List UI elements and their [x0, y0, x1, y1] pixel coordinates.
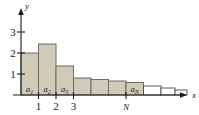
x-tick-label-2: 2: [53, 100, 59, 112]
x-tick-label-N: N: [122, 102, 130, 112]
y-axis-label: y: [24, 1, 29, 11]
x-tick-label-1: 1: [36, 100, 42, 112]
y-tick-label-3: 3: [10, 26, 16, 38]
series-bar-figure: 3 2 1 1 2 3 N y x a1 a2 a3 aN: [0, 0, 199, 115]
bar-6: [109, 81, 127, 95]
bar-open-1: [144, 86, 162, 95]
bar-open-2: [161, 88, 175, 95]
bar-group-shaded: [21, 44, 144, 95]
x-tick-label-3: 3: [71, 100, 77, 112]
bar-4: [74, 78, 92, 95]
bar-5: [91, 80, 109, 96]
figure-canvas: 3 2 1 1 2 3 N y x a1 a2 a3 aN: [0, 0, 199, 115]
y-axis-arrow: [18, 8, 24, 15]
x-axis-label: x: [191, 90, 196, 100]
y-tick-label-1: 1: [10, 68, 16, 80]
y-tick-label-2: 2: [10, 47, 16, 59]
